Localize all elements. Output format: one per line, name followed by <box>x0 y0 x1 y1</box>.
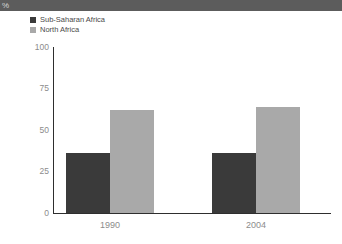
y-axis-tick-label: 25 <box>15 167 49 176</box>
bar <box>212 153 256 213</box>
y-axis-tick-label: 50 <box>15 126 49 135</box>
bar <box>66 153 110 213</box>
y-axis-tick: 100 <box>14 43 49 52</box>
y-axis-tick-label: 100 <box>15 43 49 52</box>
y-axis-tick-label: 0 <box>15 209 49 218</box>
y-axis-line <box>53 47 54 214</box>
y-axis-tick-label: 75 <box>15 84 49 93</box>
y-axis-tick: 75 <box>14 84 49 93</box>
bar-chart: 0255075100 19902004 <box>0 0 342 244</box>
bar <box>256 107 300 213</box>
y-axis-tick: 25 <box>14 167 49 176</box>
y-axis-tick: 0 <box>14 209 49 218</box>
x-axis-tick-label: 2004 <box>212 220 300 231</box>
y-axis-tick: 50 <box>14 126 49 135</box>
x-axis-tick-label: 1990 <box>66 220 154 231</box>
bar <box>110 110 154 213</box>
x-axis-line <box>53 213 331 214</box>
